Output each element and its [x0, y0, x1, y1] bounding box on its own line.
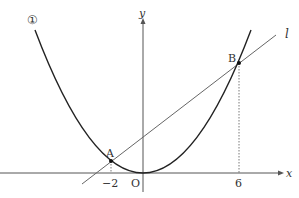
tick-label-6: 6 [235, 177, 242, 190]
tick-label-neg2: −2 [102, 177, 118, 190]
y-axis-label: y [138, 7, 146, 20]
curve-label: ① [27, 13, 38, 27]
x-axis-label: x [286, 167, 293, 180]
diagram-canvas: ① y x l O A B −2 6 [0, 0, 299, 198]
origin-label: O [131, 177, 140, 190]
point-a-label: A [105, 147, 115, 160]
point-b [237, 61, 241, 65]
line-label: l [285, 27, 289, 41]
point-b-label: B [228, 52, 236, 65]
x-axis-arrow-icon [278, 171, 284, 176]
